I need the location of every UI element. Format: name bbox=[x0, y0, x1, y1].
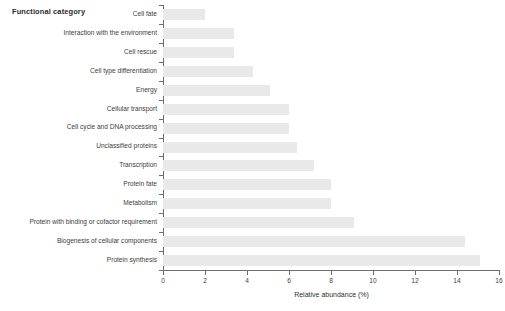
bar-row bbox=[163, 62, 499, 81]
bar bbox=[163, 217, 354, 228]
x-axis-tick bbox=[247, 271, 248, 275]
bar-row bbox=[163, 24, 499, 43]
bar bbox=[163, 198, 331, 209]
category-label: Transcription bbox=[0, 162, 157, 169]
bar bbox=[163, 85, 270, 96]
bar bbox=[163, 28, 234, 39]
bar bbox=[163, 142, 297, 153]
bar-row bbox=[163, 5, 499, 24]
bar-row bbox=[163, 251, 499, 270]
bar-row bbox=[163, 138, 499, 157]
bar bbox=[163, 47, 234, 58]
category-label: Cell fate bbox=[0, 11, 157, 18]
category-label: Unclassified proteins bbox=[0, 143, 157, 150]
category-label: Protein synthesis bbox=[0, 257, 157, 264]
bar-row bbox=[163, 43, 499, 62]
x-axis-tick-label: 12 bbox=[411, 277, 418, 284]
x-axis-tick bbox=[331, 271, 332, 275]
x-axis-tick bbox=[499, 271, 500, 275]
bar bbox=[163, 179, 331, 190]
bar bbox=[163, 123, 289, 134]
bar bbox=[163, 104, 289, 115]
bar bbox=[163, 160, 314, 171]
category-label: Protein fate bbox=[0, 181, 157, 188]
x-axis-tick-label: 2 bbox=[203, 277, 207, 284]
bar-chart: Functional category Cell fateInteraction… bbox=[0, 0, 505, 311]
category-label: Cell cycle and DNA processing bbox=[0, 124, 157, 131]
x-axis-tick-label: 10 bbox=[369, 277, 376, 284]
category-label: Interaction with the environment bbox=[0, 30, 157, 37]
bar-row bbox=[163, 81, 499, 100]
category-label: Protein with binding or cofactor require… bbox=[0, 219, 157, 226]
category-label: Cellular transport bbox=[0, 106, 157, 113]
bar-row bbox=[163, 156, 499, 175]
bar-row bbox=[163, 100, 499, 119]
bar-row bbox=[163, 175, 499, 194]
x-axis-title: Relative abundance (%) bbox=[163, 291, 500, 298]
bar-row bbox=[163, 232, 499, 251]
category-label: Cell rescue bbox=[0, 49, 157, 56]
x-axis-tick bbox=[457, 271, 458, 275]
category-label: Energy bbox=[0, 87, 157, 94]
x-axis-tick bbox=[205, 271, 206, 275]
x-axis-tick-label: 8 bbox=[329, 277, 333, 284]
bar bbox=[163, 66, 253, 77]
x-axis-tick bbox=[163, 271, 164, 275]
x-axis-tick bbox=[415, 271, 416, 275]
bar-row bbox=[163, 194, 499, 213]
x-axis-tick bbox=[373, 271, 374, 275]
bar-row bbox=[163, 119, 499, 138]
plot-area bbox=[163, 5, 499, 270]
bar bbox=[163, 255, 480, 266]
bar bbox=[163, 236, 465, 247]
category-label: Cell type differentiation bbox=[0, 68, 157, 75]
bar-row bbox=[163, 213, 499, 232]
category-label: Metabolism bbox=[0, 200, 157, 207]
x-axis-tick-label: 6 bbox=[287, 277, 291, 284]
category-label: Biogenesis of cellular components bbox=[0, 238, 157, 245]
x-axis-tick bbox=[289, 271, 290, 275]
x-axis-tick-label: 16 bbox=[495, 277, 502, 284]
x-axis-tick-label: 0 bbox=[161, 277, 165, 284]
x-axis-tick-label: 14 bbox=[453, 277, 460, 284]
x-axis-tick-label: 4 bbox=[245, 277, 249, 284]
bar bbox=[163, 9, 205, 20]
